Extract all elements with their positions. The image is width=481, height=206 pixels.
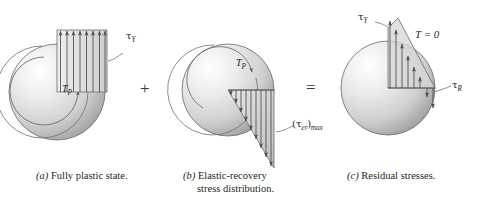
panel-b-tauer-leader [276,126,293,132]
panel-c-tauR-leader [434,86,451,92]
panel-a-tauY-leader [108,53,123,61]
panel-a-label-torque: TP [62,83,72,97]
panel-b-graphic [168,44,293,168]
caption-a: (a) Fully plastic state. [36,170,128,183]
residual-stress-figure: τY TP TP (τer)max τY T = 0 τR + = (a) Fu… [0,0,481,206]
panel-b-label-max-elastic-recovery: (τer)max [292,118,323,132]
panel-b-label-torque: TP [236,57,246,71]
panel-c-label-tau-yield: τY [358,11,368,25]
panel-a-label-tau-yield: τY [126,30,136,44]
plus-operator: + [140,79,150,99]
caption-b: (b) Elastic-recovery stress distribution… [183,170,274,195]
panel-c-label-tau-residual: τR [452,79,462,93]
panel-c-label-zero-torque: T = 0 [415,28,439,40]
panel-c-tauY-leader [375,22,388,27]
caption-c: (c) Residual stresses. [347,170,435,183]
equals-operator: = [306,78,316,98]
